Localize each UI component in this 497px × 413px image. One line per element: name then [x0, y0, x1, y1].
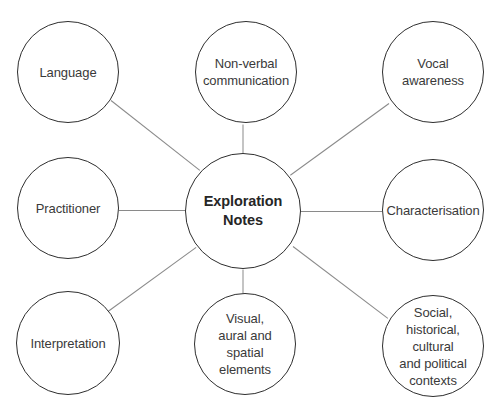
- node-practitioner: Practitioner: [17, 157, 119, 259]
- node-label: Characterisation: [386, 202, 479, 219]
- mind-map-diagram: Exploration NotesLanguageNon-verbal comm…: [0, 0, 497, 413]
- connector-line-non-verbal: [243, 125, 244, 154]
- connector-line-interpretation: [108, 247, 197, 312]
- connector-line-characterisation: [301, 211, 382, 212]
- node-label: Social, historical, cultural and politic…: [399, 304, 466, 389]
- connector-line-visual: [243, 270, 244, 294]
- connector-line-vocal: [290, 103, 390, 176]
- node-label: Vocal awareness: [402, 55, 464, 89]
- center-node: Exploration Notes: [185, 153, 301, 269]
- node-social: Social, historical, cultural and politic…: [382, 295, 484, 397]
- node-non-verbal: Non-verbal communication: [195, 21, 297, 123]
- node-language: Language: [17, 21, 119, 123]
- node-visual: Visual, aural and spatial elements: [194, 293, 296, 395]
- node-interpretation: Interpretation: [16, 291, 120, 395]
- connector-line-practitioner: [119, 210, 185, 211]
- node-label: Language: [39, 64, 96, 81]
- node-label: Non-verbal communication: [203, 55, 289, 89]
- node-label: Visual, aural and spatial elements: [218, 310, 271, 378]
- center-node-label: Exploration Notes: [204, 192, 283, 230]
- node-characterisation: Characterisation: [382, 159, 484, 261]
- node-label: Interpretation: [30, 335, 105, 352]
- node-vocal: Vocal awareness: [382, 21, 484, 123]
- connector-line-language: [111, 100, 201, 171]
- connector-line-social: [293, 246, 389, 319]
- node-label: Practitioner: [36, 200, 101, 217]
